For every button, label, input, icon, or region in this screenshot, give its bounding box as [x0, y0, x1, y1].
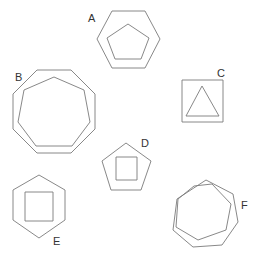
figure-d-inner-square	[116, 157, 137, 180]
figure-c-label: C	[217, 67, 225, 79]
figure-b-outer-octagon	[13, 70, 95, 153]
shapes-diagram: A B C D E F	[0, 0, 255, 258]
figure-e: E	[13, 175, 65, 247]
figure-e-outer-hexagon	[13, 175, 65, 238]
figure-c: C	[182, 67, 225, 122]
figure-a: A	[88, 11, 160, 68]
figure-a-label: A	[88, 12, 96, 24]
figure-f-inner-heptagon	[176, 184, 231, 240]
figure-a-inner-pentagon	[107, 24, 149, 59]
figure-e-label: E	[53, 235, 60, 247]
figure-c-inner-triangle	[186, 86, 219, 116]
figure-f-label: F	[241, 199, 248, 211]
figure-b-inner-heptagon	[18, 77, 90, 146]
figure-d-label: D	[141, 137, 149, 149]
figure-d: D	[102, 137, 151, 190]
figure-f: F	[173, 180, 248, 247]
figure-d-outer-pentagon	[102, 143, 151, 190]
figure-b: B	[13, 70, 95, 153]
figure-b-label: B	[15, 71, 22, 83]
figure-e-inner-square	[25, 192, 53, 221]
